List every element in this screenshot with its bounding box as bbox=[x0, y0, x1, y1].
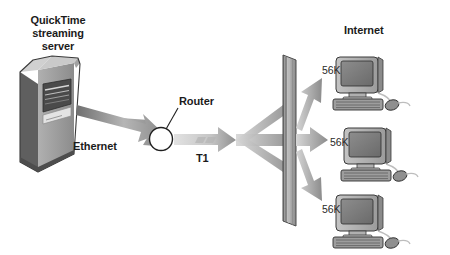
backbone-fan-connector bbox=[236, 105, 290, 172]
quicktime-streaming-server-icon bbox=[20, 56, 80, 172]
server-label: QuickTime streaming server bbox=[10, 14, 106, 53]
client-computer-1 bbox=[333, 57, 410, 112]
t1-label: T1 bbox=[196, 152, 209, 165]
internet-backbone-slab bbox=[283, 55, 296, 226]
server-label-line-2: streaming bbox=[10, 27, 106, 40]
t1-link-arrow bbox=[174, 127, 236, 152]
internet-label: Internet bbox=[344, 24, 384, 37]
client-computer-2 bbox=[341, 128, 418, 183]
client-speed-label-3: 56K bbox=[322, 203, 340, 215]
server-label-line-1: QuickTime bbox=[10, 14, 106, 27]
network-diagram: QuickTime streaming server Ethernet Rout… bbox=[0, 0, 450, 255]
router-label: Router bbox=[179, 95, 214, 108]
client-speed-label-1: 56K bbox=[322, 64, 340, 76]
client-speed-label-2: 56K bbox=[330, 136, 348, 148]
client-link-arrows bbox=[296, 78, 328, 201]
server-label-line-3: server bbox=[10, 40, 106, 53]
client-computer-3 bbox=[333, 195, 410, 250]
ethernet-label: Ethernet bbox=[73, 140, 117, 153]
router-node-icon bbox=[150, 108, 179, 151]
